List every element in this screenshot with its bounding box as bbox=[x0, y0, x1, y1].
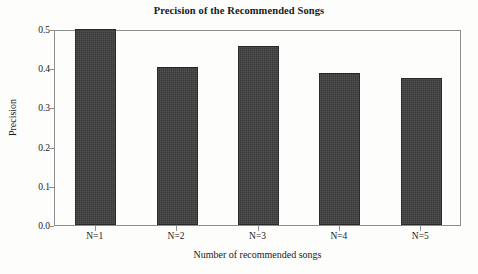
y-axis-tick-label: 0.3 bbox=[16, 103, 50, 113]
x-axis-tick-label: N=4 bbox=[309, 231, 369, 241]
y-axis-tick-label: 0.0 bbox=[16, 221, 50, 231]
bar bbox=[75, 29, 116, 225]
y-axis-tick-label: 0.2 bbox=[16, 143, 50, 153]
y-axis-tick-label: 0.4 bbox=[16, 64, 50, 74]
bar bbox=[157, 67, 198, 225]
bars-container bbox=[55, 31, 460, 225]
y-axis-tick-label: 0.1 bbox=[16, 182, 50, 192]
plot-area bbox=[54, 30, 461, 226]
x-axis-tick-labels: N=1N=2N=3N=4N=5 bbox=[54, 231, 461, 247]
x-axis-tick-label: N=3 bbox=[228, 231, 288, 241]
x-axis-tick-label: N=1 bbox=[65, 231, 125, 241]
chart-figure: Precision of the Recommended Songs Preci… bbox=[0, 0, 478, 274]
bar bbox=[401, 78, 442, 225]
y-axis-tick-labels: 0.00.10.20.30.40.5 bbox=[12, 30, 50, 226]
x-axis-label: Number of recommended songs bbox=[54, 249, 461, 260]
x-axis-tick-label: N=5 bbox=[390, 231, 450, 241]
chart-title: Precision of the Recommended Songs bbox=[0, 5, 478, 16]
y-axis-tick-label: 0.5 bbox=[16, 25, 50, 35]
bar bbox=[238, 46, 279, 225]
bar bbox=[319, 73, 360, 225]
x-axis-tick-label: N=2 bbox=[146, 231, 206, 241]
